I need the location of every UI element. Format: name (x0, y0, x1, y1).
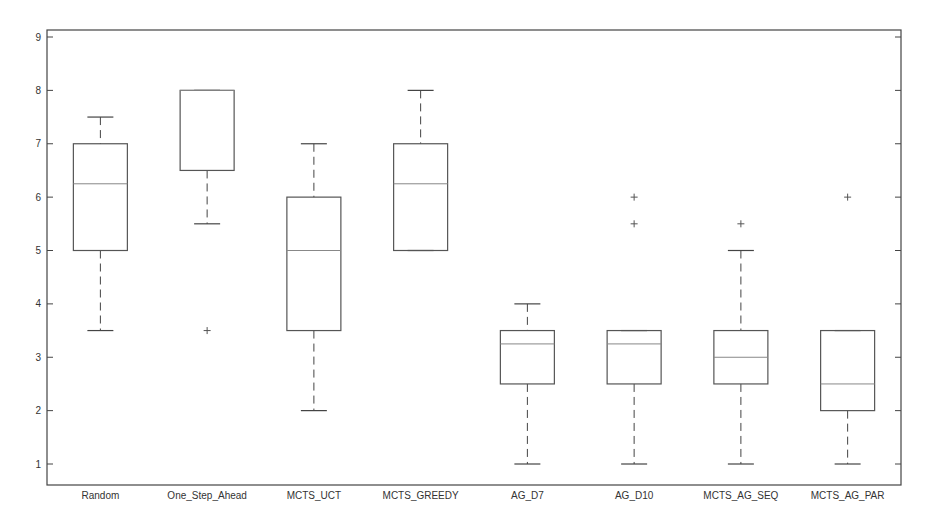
y-tick-label: 9 (35, 32, 41, 43)
y-tick-label: 7 (35, 138, 41, 149)
y-tick-label: 4 (35, 298, 41, 309)
y-tick-label: 2 (35, 405, 41, 416)
x-category-label: MCTS_AG_PAR (811, 490, 885, 501)
y-tick-label: 3 (35, 352, 41, 363)
x-category-label: AG_D7 (511, 490, 544, 501)
x-category-label: AG_D10 (615, 490, 654, 501)
x-category-label: Random (81, 490, 119, 501)
boxplot-chart: 123456789 RandomOne_Step_AheadMCTS_UCTMC… (0, 0, 934, 526)
y-tick-label: 6 (35, 192, 41, 203)
y-tick-label: 1 (35, 459, 41, 470)
x-axis: RandomOne_Step_AheadMCTS_UCTMCTS_GREEDYA… (81, 490, 884, 501)
plot-area (47, 30, 901, 485)
x-category-label: MCTS_UCT (287, 490, 341, 501)
x-category-label: MCTS_GREEDY (383, 490, 459, 501)
x-category-label: MCTS_AG_SEQ (703, 490, 778, 501)
x-category-label: One_Step_Ahead (167, 490, 247, 501)
y-tick-label: 8 (35, 85, 41, 96)
y-tick-label: 5 (35, 245, 41, 256)
